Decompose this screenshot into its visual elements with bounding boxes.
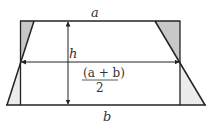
label-midline-numerator: (a + b) (83, 66, 125, 80)
label-bottom-side: b (103, 109, 111, 124)
trapezoid-diagram: a h (a + b) 2 b (0, 0, 213, 125)
label-midline-denominator: 2 (96, 81, 104, 95)
label-height: h (69, 46, 77, 61)
label-top-side: a (91, 5, 99, 20)
